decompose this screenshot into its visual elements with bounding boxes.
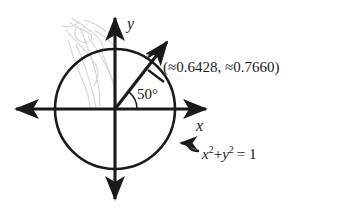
circle-equation-label: x2+y2= 1 — [201, 144, 257, 162]
point-coordinate-label: (≈0.6428, ≈0.7660) — [163, 59, 279, 76]
x-axis-label: x — [195, 117, 203, 134]
equation-right-side: = 1 — [237, 146, 257, 162]
equation-y-exponent: 2 — [229, 144, 234, 155]
angle-label: 50° — [137, 86, 158, 102]
angle-arc — [129, 92, 137, 109]
equation-leader-arrow — [181, 143, 199, 151]
unit-circle-figure: y x 50° (≈0.6428, ≈0.7660) x2+y2= 1 — [0, 0, 345, 218]
y-axis-label: y — [125, 15, 135, 33]
equation-plus-sign: + — [214, 146, 222, 162]
scan-smudge-artifact — [62, 18, 116, 110]
diagram-canvas: y x 50° (≈0.6428, ≈0.7660) x2+y2= 1 — [0, 0, 345, 218]
equation-y-term: y — [220, 146, 229, 162]
